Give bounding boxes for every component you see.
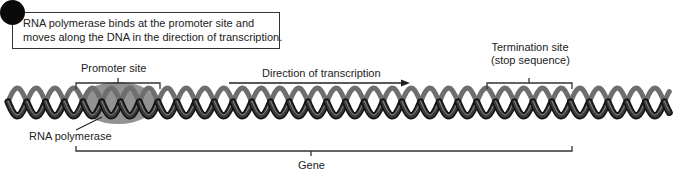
- stop-sequence-label: (stop sequence): [491, 54, 569, 67]
- rna-polymerase-label: RNA polymerase: [29, 130, 112, 143]
- note-line-1: RNA polymerase binds at the promoter sit…: [23, 17, 282, 31]
- step-bullet-icon: [0, 0, 25, 25]
- promoter-site-label: Promoter site: [81, 62, 146, 75]
- gene-label: Gene: [298, 159, 325, 172]
- rna-polymerase-leader: [76, 117, 102, 130]
- gene-bracket: [76, 146, 572, 156]
- direction-label: Direction of transcription: [262, 67, 381, 80]
- direction-arrow: [229, 80, 410, 87]
- termination-site-label: Termination site: [491, 41, 569, 54]
- note-line-2: moves along the DNA in the direction of …: [23, 31, 282, 45]
- note-text: RNA polymerase binds at the promoter sit…: [23, 17, 282, 44]
